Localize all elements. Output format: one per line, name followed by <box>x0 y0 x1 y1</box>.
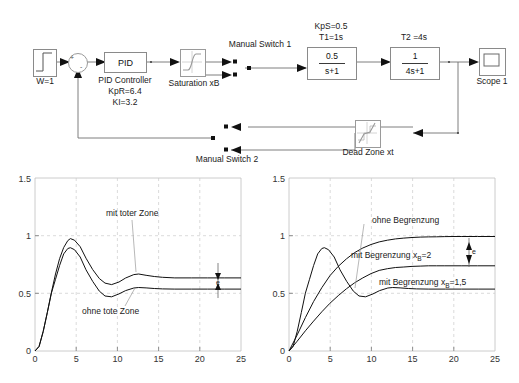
arrow-switch2-in-a <box>231 123 241 131</box>
pid-block[interactable]: PID <box>104 52 147 73</box>
pid-caption-ki: KI=3.2 <box>79 98 171 108</box>
arrow-to-deadzone <box>413 129 423 137</box>
xtick-25: 25 <box>490 354 500 364</box>
xtick-5: 5 <box>328 354 333 364</box>
annotation-ohne-begrenzung: ohne Begrenzung <box>372 215 439 225</box>
ytick-1: 1 <box>26 231 31 241</box>
sum-sign-plus: + <box>70 54 74 61</box>
arrow-to-saturation <box>170 58 180 66</box>
xtick-20: 20 <box>195 354 205 364</box>
ytick-05: 0.5 <box>18 289 31 299</box>
step-source-label: W=1 <box>25 77 65 87</box>
tf2-caption-t2: T2 =4s <box>383 33 445 43</box>
chart-left-annotations: mit toter Zone ohne tote Zone e <box>82 208 220 316</box>
manual-switch-1-glyph <box>233 60 251 77</box>
xtick-0: 0 <box>286 354 291 364</box>
xtick-10: 10 <box>366 354 376 364</box>
chart-left-yticklabels: 0 0.5 1 1.5 <box>18 174 31 357</box>
xtick-25: 25 <box>236 354 246 364</box>
arrow-to-tf1 <box>297 64 307 72</box>
junction-dot-tf2-out <box>448 61 450 63</box>
annotation-mit-toter-zone: mit toter Zone <box>106 208 159 218</box>
arrow-to-scope <box>469 58 479 66</box>
chart-right-yticklabels: 0 0.5 1 1.5 <box>272 174 285 357</box>
xtick-15: 15 <box>408 354 418 364</box>
curve-ohne-begrenzung <box>289 248 495 351</box>
manual-switch-2-glyph <box>211 125 228 152</box>
ytick-05: 0.5 <box>272 289 285 299</box>
dead-zone-icon <box>356 121 378 145</box>
curve-mit-toter-zone <box>35 239 241 351</box>
screenshot-root: W=1 + - PID PID Controller KpR=6.4 KI=3.… <box>0 0 519 383</box>
saturation-icon <box>181 50 203 74</box>
dead-zone-label: Dead Zone xt <box>329 148 407 158</box>
chart-right-annotations: ohne Begrenzung mit Begrenzung xB=2 mit … <box>351 215 476 289</box>
tf1-caption-t1: T1=1s <box>300 33 362 43</box>
ytick-1: 1 <box>280 231 285 241</box>
pid-block-label: PID <box>118 58 133 68</box>
chart-left-svg: 0 5 10 15 20 25 0 0.5 1 1.5 <box>0 168 259 383</box>
annotation-ohne-tote-zone: ohne tote Zone <box>82 306 139 316</box>
annotation-error-e: e <box>472 248 476 255</box>
chart-right: 0 5 10 15 20 25 0 0.5 1 1.5 <box>259 168 519 383</box>
scope-block[interactable] <box>479 48 506 76</box>
ytick-15: 1.5 <box>18 174 31 184</box>
step-icon <box>34 50 54 74</box>
chart-right-grid <box>289 178 495 351</box>
xtick-0: 0 <box>32 354 37 364</box>
block-diagram: W=1 + - PID PID Controller KpR=6.4 KI=3.… <box>0 0 519 168</box>
chart-left: 0 5 10 15 20 25 0 0.5 1 1.5 <box>0 168 259 383</box>
ytick-15: 1.5 <box>272 174 285 184</box>
saturation-label: Saturation xB <box>152 79 236 89</box>
saturation-block[interactable] <box>180 49 206 77</box>
junction-dot-pid-out <box>150 61 152 63</box>
annotation-error-e: e <box>216 279 220 286</box>
diagram-wires <box>0 0 519 168</box>
arrow-switch2-in-b <box>231 146 241 154</box>
chart-left-xticklabels: 0 5 10 15 20 25 <box>32 354 246 364</box>
tf2-fraction-bar <box>402 63 428 64</box>
dead-zone-block[interactable] <box>355 120 381 148</box>
scope-icon <box>480 49 503 73</box>
transfer-function-2[interactable]: 1 4s+1 <box>390 47 440 80</box>
curve-ohne-tote-zone <box>35 248 241 351</box>
annotation-mit-begrenzung-15: mit Begrenzung xB=1,5 <box>379 277 467 289</box>
arrow-switch1-in-a <box>222 58 232 66</box>
tf2-numerator: 1 <box>413 52 418 61</box>
manual-switch-1-label: Manual Switch 1 <box>215 40 305 50</box>
sum-sign-minus: - <box>80 63 82 70</box>
transfer-function-1[interactable]: 0.5 s+1 <box>307 47 357 80</box>
chart-left-grid <box>35 178 241 351</box>
arrow-switch1-in-b <box>222 71 232 79</box>
annotation-mit-begrenzung-2: mit Begrenzung xB=2 <box>351 250 431 262</box>
chart-right-svg: 0 5 10 15 20 25 0 0.5 1 1.5 <box>259 168 519 383</box>
tf1-caption-kps: KpS=0.5 <box>300 22 362 32</box>
chart-left-curves <box>35 239 241 351</box>
tf1-denominator: s+1 <box>325 67 339 76</box>
xtick-20: 20 <box>449 354 459 364</box>
step-source-block[interactable] <box>33 49 57 77</box>
ytick-0: 0 <box>280 346 285 356</box>
manual-switch-2-label: Manual Switch 2 <box>181 155 273 165</box>
ytick-0: 0 <box>26 346 31 356</box>
xtick-15: 15 <box>154 354 164 364</box>
scope-label: Scope 1 <box>468 77 516 87</box>
tf1-numerator: 0.5 <box>326 52 338 61</box>
tf1-fraction-bar <box>319 63 345 64</box>
junction-dot-feedback <box>457 132 459 134</box>
xtick-5: 5 <box>74 354 79 364</box>
xtick-10: 10 <box>112 354 122 364</box>
tf2-denominator: 4s+1 <box>406 67 425 76</box>
chart-right-xticklabels: 0 5 10 15 20 25 <box>286 354 500 364</box>
